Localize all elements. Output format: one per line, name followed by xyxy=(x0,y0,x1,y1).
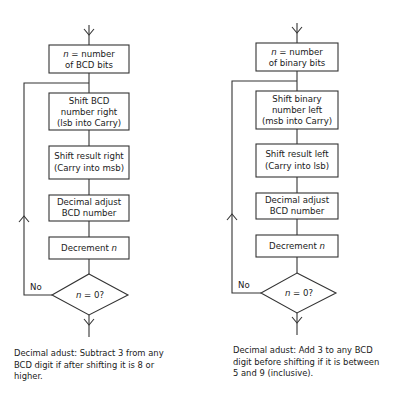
step-decrement-label: Decrement n xyxy=(61,243,117,253)
step-init-line1: n = number xyxy=(271,47,323,57)
flowchart-canvas: n = number of BCD bits Shift BCD number … xyxy=(0,0,396,394)
step-init-line1: n = number xyxy=(63,49,115,59)
no-label: No xyxy=(238,280,250,290)
note-bcd-to-binary: Decimal adust: Subtract 3 from any BCD d… xyxy=(14,348,164,383)
flowchart-binary-to-bcd: n = number of binary bits Shift binary n… xyxy=(227,23,338,335)
step-shift-result-line2: (Carry into msb) xyxy=(54,163,124,173)
step-shift-binary-line3: (msb into Carry) xyxy=(262,116,332,126)
step-init-line2: of binary bits xyxy=(269,58,326,68)
step-decimal-adjust-line1: Decimal adjust xyxy=(265,195,330,205)
decision-label: n = 0? xyxy=(285,288,313,298)
step-init-line2: of BCD bits xyxy=(65,60,113,70)
note-binary-to-bcd: Decimal adust: Add 3 to any BCD digit be… xyxy=(233,345,383,380)
step-shift-binary-line1: Shift binary xyxy=(272,94,321,104)
step-shift-bcd-line1: Shift BCD xyxy=(69,96,110,106)
step-decimal-adjust-line2: BCD number xyxy=(62,208,117,218)
step-shift-bcd-line3: (lsb into Carry) xyxy=(57,118,121,128)
step-shift-binary-line2: number left xyxy=(272,105,323,115)
no-label: No xyxy=(30,282,42,292)
step-shift-bcd-line2: number right xyxy=(61,107,118,117)
flowchart-bcd-to-binary: n = number of BCD bits Shift BCD number … xyxy=(19,25,129,337)
step-shift-result-line1: Shift result left xyxy=(265,149,329,159)
step-decrement-label: Decrement n xyxy=(269,241,325,251)
step-decimal-adjust-line2: BCD number xyxy=(270,206,325,216)
step-shift-result-line2: (Carry into lsb) xyxy=(265,161,329,171)
decision-label: n = 0? xyxy=(76,290,104,300)
step-shift-result-line1: Shift result right xyxy=(54,151,124,161)
step-decimal-adjust-line1: Decimal adjust xyxy=(57,197,122,207)
